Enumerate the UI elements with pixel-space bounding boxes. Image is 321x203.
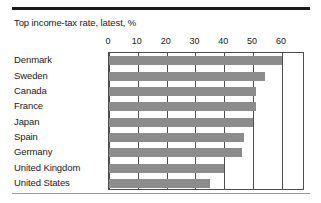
x-tick-label: 50 — [247, 36, 257, 46]
plot-inner — [109, 53, 303, 189]
category-label: United Kingdom — [14, 162, 80, 173]
x-tick-label: 10 — [132, 36, 142, 46]
category-label: Japan — [14, 116, 39, 127]
top-rule — [12, 7, 310, 10]
category-label: Denmark — [14, 54, 52, 65]
category-label: Germany — [14, 146, 52, 157]
bar — [109, 56, 282, 65]
page-title: Top income-tax rate, latest, % — [14, 17, 136, 28]
bottom-rule — [12, 193, 310, 194]
x-tick-label: 40 — [218, 36, 228, 46]
x-tick-label: 0 — [105, 36, 110, 46]
chart-figure: Top income-tax rate, latest, % 010203040… — [0, 0, 321, 203]
x-axis-tick-labels: 0102030405060 — [108, 36, 304, 50]
bar — [109, 164, 224, 173]
category-label: Spain — [14, 131, 38, 142]
bar — [109, 133, 244, 142]
category-label: Canada — [14, 85, 47, 96]
bar — [109, 179, 210, 188]
bar — [109, 87, 256, 96]
category-label: France — [14, 100, 43, 111]
category-label: United States — [14, 177, 70, 188]
x-tick-label: 30 — [189, 36, 199, 46]
category-labels: DenmarkSwedenCanadaFranceJapanSpainGerma… — [14, 52, 107, 190]
bar — [109, 148, 242, 157]
bar — [109, 72, 265, 81]
bar — [109, 102, 256, 111]
x-tick-label: 60 — [276, 36, 286, 46]
gridline — [282, 53, 283, 189]
x-tick-label: 20 — [161, 36, 171, 46]
bar — [109, 118, 253, 127]
plot-area — [108, 52, 304, 190]
category-label: Sweden — [14, 70, 48, 81]
